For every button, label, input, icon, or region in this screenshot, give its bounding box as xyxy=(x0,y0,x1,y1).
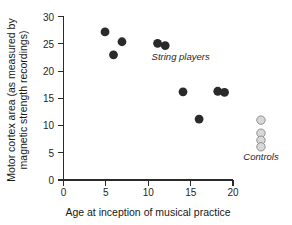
y-tick-label: 0 xyxy=(48,175,54,186)
y-axis-ticks: 30 25 20 15 10 5 0 xyxy=(43,12,64,186)
x-axis-title: Age at inception of musical practice xyxy=(65,206,230,218)
y-axis-title-line1: Motor cortex area (as measured by xyxy=(5,18,17,182)
series-annotation-controls: Controls xyxy=(243,151,279,162)
data-point xyxy=(257,143,265,151)
data-point xyxy=(179,87,188,96)
x-tick-label: 0 xyxy=(61,187,67,198)
data-point xyxy=(195,115,204,124)
data-point xyxy=(118,37,127,46)
y-tick-label: 30 xyxy=(43,12,55,23)
y-tick-label: 25 xyxy=(43,39,55,50)
scatter-plot-figure: Motor cortex area (as measured by magnet… xyxy=(0,0,292,225)
chart-canvas: Motor cortex area (as measured by magnet… xyxy=(0,0,292,225)
data-point xyxy=(220,88,229,97)
data-point xyxy=(257,116,265,124)
y-tick-label: 15 xyxy=(43,93,55,104)
data-point xyxy=(101,28,110,37)
y-tick-label: 20 xyxy=(43,66,55,77)
series-annotation-string-players: String players xyxy=(152,51,210,62)
x-tick-label: 20 xyxy=(227,187,239,198)
x-tick-label: 10 xyxy=(143,187,155,198)
y-tick-label: 5 xyxy=(48,148,54,159)
x-tick-label: 5 xyxy=(103,187,109,198)
y-axis-title-line2: magnetic strength recordings) xyxy=(17,31,29,170)
y-axis-title: Motor cortex area (as measured by magnet… xyxy=(5,18,29,182)
x-axis-ticks: 0 5 10 15 20 xyxy=(61,180,239,198)
x-tick-label: 15 xyxy=(185,187,197,198)
data-point xyxy=(109,50,118,59)
y-tick-label: 10 xyxy=(43,120,55,131)
data-markers-layer xyxy=(101,28,266,151)
data-point xyxy=(153,39,162,48)
data-point xyxy=(161,41,170,50)
